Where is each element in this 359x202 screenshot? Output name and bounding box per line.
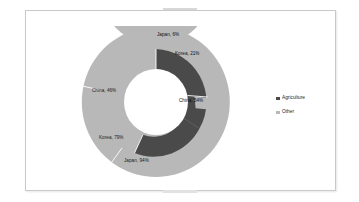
legend-swatch-agriculture-icon [276, 97, 280, 101]
doughnut-svg [81, 26, 231, 178]
data-label-japan-agriculture: Japan, 6% [157, 33, 179, 38]
doughnut-chart[interactable]: Japan, 6% Korea, 21% China, 54% China, 4… [81, 26, 231, 178]
slide-canvas: Japan, 6% Korea, 21% China, 54% China, 4… [25, 10, 336, 191]
legend-item-other[interactable]: Other [276, 109, 334, 116]
slide-bottom-handle [163, 190, 197, 193]
legend-swatch-other-icon [276, 111, 280, 115]
data-label-korea-other: Korea, 79% [99, 136, 124, 141]
data-label-japan-other: Japan, 94% [124, 159, 149, 164]
data-label-china-other: China, 46% [92, 89, 116, 94]
data-label-china-agriculture: China, 54% [179, 99, 203, 104]
chart-legend[interactable]: Agriculture Other [276, 95, 334, 123]
data-label-korea-agriculture: Korea, 21% [175, 52, 200, 57]
legend-label-other: Other [282, 110, 294, 115]
legend-item-agriculture[interactable]: Agriculture [276, 95, 334, 102]
chart-plot-area[interactable]: Japan, 6% Korea, 21% China, 54% China, 4… [26, 11, 337, 192]
legend-label-agriculture: Agriculture [282, 96, 305, 101]
